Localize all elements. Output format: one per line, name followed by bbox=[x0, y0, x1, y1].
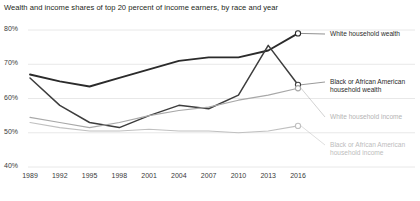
x-axis-tick-1992: 1992 bbox=[52, 172, 68, 179]
legend-item-3[interactable]: White household income bbox=[330, 113, 402, 121]
y-axis-tick-40: 40% bbox=[4, 162, 18, 169]
series-lines bbox=[30, 33, 298, 132]
legend-label-line1: Black or African American bbox=[330, 78, 405, 86]
x-axis-tick-1989: 1989 bbox=[22, 172, 38, 179]
x-axis-tick-2010: 2010 bbox=[231, 172, 247, 179]
legend-label-line2: household wealth bbox=[330, 86, 405, 94]
x-axis-tick-1998: 1998 bbox=[112, 172, 128, 179]
x-axis-tick-2013: 2013 bbox=[260, 172, 276, 179]
y-axis-tick-70: 70% bbox=[4, 59, 18, 66]
y-axis-tick-80: 80% bbox=[4, 25, 18, 32]
x-axis-tick-2001: 2001 bbox=[141, 172, 157, 179]
chart-container: Wealth and income shares of top 20 perce… bbox=[0, 0, 420, 201]
legend-item-4[interactable]: Black or African Americanhousehold incom… bbox=[330, 141, 405, 156]
x-axis-tick-2007: 2007 bbox=[201, 172, 217, 179]
legend-leader-lines bbox=[301, 33, 325, 145]
x-axis-tick-2016: 2016 bbox=[290, 172, 306, 179]
legend-label-line2: household income bbox=[330, 149, 405, 157]
y-axis-tick-60: 60% bbox=[4, 94, 18, 101]
legend-label-line1: White household wealth bbox=[330, 30, 400, 38]
legend-item-2[interactable]: Black or African Americanhousehold wealt… bbox=[330, 78, 405, 93]
legend-label-line1: Black or African American bbox=[330, 141, 405, 149]
x-axis-tick-1995: 1995 bbox=[82, 172, 98, 179]
series-end-markers bbox=[295, 31, 300, 129]
legend-label-line1: White household income bbox=[330, 113, 402, 121]
legend-item-1[interactable]: White household wealth bbox=[330, 30, 400, 38]
y-axis-tick-50: 50% bbox=[4, 128, 18, 135]
x-axis-tick-2004: 2004 bbox=[171, 172, 187, 179]
